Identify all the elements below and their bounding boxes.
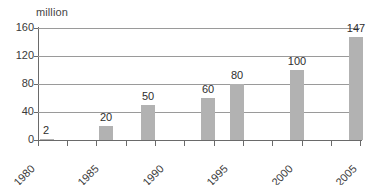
bar-value-1996: 80: [222, 69, 252, 81]
x-tick-mark-3: [126, 141, 127, 146]
x-tick-mark-11: [360, 141, 361, 146]
x-tick-mark-10: [331, 141, 332, 146]
x-tick-label-2000: 2000: [269, 162, 295, 185]
x-tick-mark-8: [272, 141, 273, 146]
y-tick-label-40: 40: [2, 105, 34, 117]
x-tick-mark-0: [38, 141, 39, 146]
x-tick-mark-6: [214, 141, 215, 146]
y-tick-label-120: 120: [2, 49, 34, 61]
x-tick-label-1990: 1990: [140, 162, 166, 185]
bar-1985: [99, 126, 113, 140]
plot-area: 2 20 50 60 80 100 147: [38, 28, 360, 140]
bar-2005: [349, 37, 363, 140]
y-tick-label-160: 160: [2, 21, 34, 33]
bar-chart: million 160 120 80 40 0 2 20 50 60 80 10…: [0, 0, 381, 185]
x-tick-mark-9: [302, 141, 303, 146]
x-axis-line: [38, 140, 362, 141]
y-tick-label-80: 80: [2, 77, 34, 89]
gridline-160: [38, 28, 360, 29]
bar-1996: [230, 84, 244, 140]
y-tick-label-0: 0: [2, 133, 34, 145]
gridline-40: [38, 112, 360, 113]
y-axis-unit-label: million: [36, 6, 68, 18]
x-tick-mark-4: [155, 141, 156, 146]
x-tick-mark-7: [243, 141, 244, 146]
bar-value-1988: 50: [133, 90, 163, 102]
bar-2000: [290, 70, 304, 140]
bar-1988: [141, 105, 155, 140]
x-tick-label-2005: 2005: [333, 162, 359, 185]
bar-1980: [40, 139, 54, 140]
x-tick-label-1995: 1995: [204, 162, 230, 185]
x-tick-mark-5: [184, 141, 185, 146]
bar-value-2000: 100: [282, 55, 312, 67]
x-tick-label-1985: 1985: [75, 162, 101, 185]
y-axis-ticks: 160 120 80 40 0: [0, 0, 34, 185]
bar-1994: [201, 98, 215, 140]
bar-value-2005: 147: [341, 22, 371, 34]
x-tick-mark-1: [67, 141, 68, 146]
x-tick-mark-2: [96, 141, 97, 146]
bar-value-1985: 20: [91, 111, 121, 123]
bar-value-1994: 60: [193, 83, 223, 95]
bar-value-1980: 2: [31, 124, 61, 136]
